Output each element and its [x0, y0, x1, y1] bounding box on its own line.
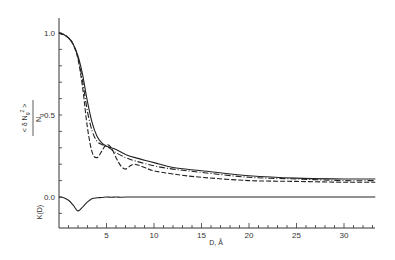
x-axis-label: D, Å	[209, 238, 223, 246]
x-tick-label: 20	[245, 231, 254, 240]
y-tick-label: 1.0	[44, 29, 56, 38]
svg-text:K(D): K(D)	[36, 205, 44, 219]
chart-figure: 51015202530 0.00.51.0 < δ Ng2 > Ng K(D) …	[0, 0, 395, 260]
lower-y-axis-label: K(D)	[36, 205, 44, 219]
series-line-solid	[59, 33, 375, 179]
x-tick-label: 10	[150, 231, 159, 240]
y-tick-label: 0.0	[44, 193, 56, 202]
svg-text:< δ Ng2 >: < δ Ng2 >	[19, 104, 30, 133]
y-tick-label: 0.5	[44, 111, 56, 120]
x-tick-label: 15	[197, 231, 206, 240]
y-axis-label-denominator: Ng	[35, 114, 44, 122]
series-group	[59, 33, 375, 211]
x-tick-label: 5	[104, 231, 109, 240]
x-ticks: 51015202530	[69, 223, 373, 240]
y-axis-label: < δ Ng2 >	[19, 104, 30, 133]
x-tick-label: 25	[292, 231, 301, 240]
series-line-dash-dot	[59, 33, 375, 181]
series-line-k-d-	[59, 197, 375, 211]
series-line-dashed	[59, 33, 375, 182]
svg-text:Ng: Ng	[35, 114, 44, 122]
x-tick-label: 30	[340, 231, 349, 240]
